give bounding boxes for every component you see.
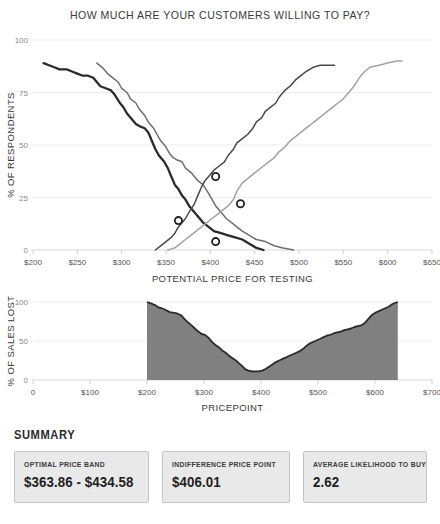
psm-x-tick-label: $350 [157,258,175,267]
card-value: $363.86 - $434.58 [24,474,134,490]
sales-y-axis-title: % OF SALES LOST [5,296,16,387]
sales-x-tick-label: $400 [252,388,270,397]
psm-chart-svg: 0255075100$200$250$300$350$400$450$500$5… [0,28,440,290]
psm-x-tick-label: $400 [201,258,219,267]
sales-x-tick-label: $300 [195,388,213,397]
page-title: HOW MUCH ARE YOUR CUSTOMERS WILLING TO P… [18,9,423,21]
card-label: OPTIMAL PRICE BAND [24,460,134,469]
psm-x-tick-label: $250 [68,258,86,267]
psm-y-axis-title: % OF RESPONDENTS [5,92,16,198]
summary-heading: SUMMARY [14,428,397,442]
psm-x-axis-title: POTENTIAL PRICE FOR TESTING [152,273,313,284]
psm-x-tick-label: $600 [379,258,397,267]
sales-x-axis-title: PRICEPOINT [201,402,263,413]
card-indifference-price-point: INDIFFERENCE PRICE POINT $406.01 [162,451,290,503]
psm-series-line [97,63,294,250]
sales-x-tick-label: $700 [423,388,440,397]
sales-lost-chart: 0501000$100$200$300$400$500$600$700PRICE… [0,292,440,422]
card-value: 2.62 [313,474,412,490]
sales-lost-chart-svg: 0501000$100$200$300$400$500$600$700PRICE… [0,292,440,422]
card-label: INDIFFERENCE PRICE POINT [172,460,275,469]
psm-x-tick-label: $550 [334,258,352,267]
card-label: AVERAGE LIKELIHOOD TO BUY [313,460,412,469]
sales-x-tick-label: $200 [138,388,156,397]
psm-x-tick-label: $650 [423,258,440,267]
sales-x-tick-label: 0 [31,388,36,397]
psm-y-tick-label: 50 [19,141,28,150]
psm-intersection-marker-lower-bound-point [175,217,182,224]
summary-section: SUMMARY OPTIMAL PRICE BAND $363.86 - $43… [14,428,426,503]
psm-y-tick-label: 75 [19,89,28,98]
psm-x-tick-label: $500 [290,258,308,267]
card-optimal-price-band: OPTIMAL PRICE BAND $363.86 - $434.58 [14,451,149,503]
sales-x-tick-label: $600 [366,388,384,397]
psm-y-tick-label: 25 [19,194,28,203]
summary-cards: OPTIMAL PRICE BAND $363.86 - $434.58 IND… [14,451,426,503]
sales-x-tick-label: $500 [309,388,327,397]
sales-y-tick-label: 0 [24,376,29,385]
psm-y-tick-label: 0 [24,246,29,255]
psm-x-tick-label: $200 [24,258,42,267]
sales-y-tick-label: 100 [15,298,29,307]
psm-y-tick-label: 100 [15,36,29,45]
sales-x-tick-label: $100 [81,388,99,397]
card-average-likelihood-to-buy: AVERAGE LIKELIHOOD TO BUY 2.62 [303,451,427,503]
psm-intersection-marker-optimal-price-point [212,238,219,245]
psm-x-tick-label: $450 [246,258,264,267]
sales-y-tick-label: 50 [19,337,28,346]
psm-chart: 0255075100$200$250$300$350$400$450$500$5… [0,28,440,290]
psm-x-tick-label: $300 [113,258,131,267]
card-value: $406.01 [172,474,275,490]
psm-intersection-marker-indifference-point [212,173,219,180]
psm-intersection-marker-upper-bound-point [237,200,244,207]
